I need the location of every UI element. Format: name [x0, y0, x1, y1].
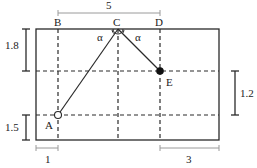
point-e-marker	[156, 67, 164, 75]
point-a-marker	[55, 112, 62, 119]
ray-path	[58, 29, 160, 115]
room-rectangle	[36, 29, 219, 140]
dimension-top-value: 5	[106, 0, 112, 11]
reflection-diagram: B C D E A α α 5 1.8 1.5 1.2 1	[0, 0, 257, 168]
dimension-right-value: 1.2	[240, 87, 254, 99]
dimension-left-upper	[22, 29, 30, 71]
dimension-left-upper-value: 1.8	[5, 39, 19, 51]
dimension-bottom-right	[160, 145, 219, 151]
label-a: A	[45, 119, 53, 131]
angle-alpha-left: α	[97, 31, 103, 43]
dimension-right	[231, 71, 239, 115]
label-e: E	[166, 76, 173, 88]
dimension-left-lower-value: 1.5	[5, 121, 19, 133]
angle-alpha-right: α	[135, 31, 141, 43]
dimension-bottom-left	[36, 145, 58, 151]
dimension-bottom-right-value: 3	[186, 153, 192, 165]
dimension-left-lower	[22, 115, 30, 140]
label-b: B	[54, 16, 61, 28]
dashed-guides	[36, 29, 219, 140]
label-c: C	[113, 16, 120, 28]
dimension-bottom-left-value: 1	[45, 153, 51, 165]
label-d: D	[155, 16, 163, 28]
